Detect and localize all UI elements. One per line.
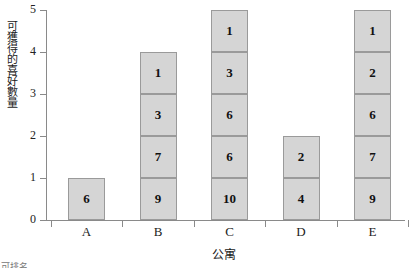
x-axis-title: 公寓	[0, 245, 419, 262]
bar-segment: 2	[283, 136, 320, 178]
bar-segment: 6	[68, 178, 105, 220]
bar-c: 106631	[211, 10, 248, 220]
bar-segment: 6	[211, 94, 248, 136]
y-tick-mark	[40, 52, 47, 53]
bar-a: 6	[68, 10, 105, 220]
x-tick-mark	[337, 220, 338, 227]
bar-segment: 6	[211, 136, 248, 178]
bar-segment: 3	[211, 52, 248, 94]
bar-e: 97621	[354, 10, 391, 220]
bar-segment: 10	[211, 178, 248, 220]
x-tick-mark	[194, 220, 195, 227]
x-tick-mark	[408, 220, 409, 227]
bar-segment: 6	[354, 94, 391, 136]
x-tick-label-b: B	[138, 224, 178, 240]
bar-segment: 1	[211, 10, 248, 52]
x-axis-line	[46, 220, 405, 221]
bar-segment: 7	[140, 136, 177, 178]
bar-segment: 9	[354, 178, 391, 220]
bar-d: 42	[283, 10, 320, 220]
bar-segment: 1	[354, 10, 391, 52]
y-tick-mark	[40, 178, 47, 179]
y-tick-label: 3	[22, 86, 36, 101]
bar-b: 9731	[140, 10, 177, 220]
y-tick-label: 5	[22, 2, 36, 17]
x-tick-mark	[265, 220, 266, 227]
y-tick-mark	[40, 136, 47, 137]
bar-segment: 2	[354, 52, 391, 94]
y-axis-title: 可獲得的喜好數量	[2, 20, 17, 108]
x-tick-mark	[122, 220, 123, 227]
bar-segment: 9	[140, 178, 177, 220]
stacked-bar-chart: 可獲得的喜好數量 012345 ABCDE 697311066314297621…	[0, 0, 419, 268]
x-tick-mark	[51, 220, 52, 227]
y-tick-label: 4	[22, 44, 36, 59]
x-tick-label-e: E	[353, 224, 393, 240]
y-tick-label: 2	[22, 128, 36, 143]
y-tick-label: 1	[22, 170, 36, 185]
bar-segment: 4	[283, 178, 320, 220]
x-axis-title-text: 公寓	[212, 245, 236, 262]
x-tick-label-d: D	[281, 224, 321, 240]
y-tick-label: 0	[22, 212, 36, 227]
bar-segment: 3	[140, 94, 177, 136]
y-tick-mark	[40, 94, 47, 95]
bar-segment: 7	[354, 136, 391, 178]
y-tick-mark	[40, 10, 47, 11]
y-tick-mark	[40, 220, 47, 221]
x-tick-label-a: A	[67, 224, 107, 240]
x-tick-label-c: C	[210, 224, 250, 240]
y-axis-line	[46, 10, 47, 221]
bar-segment: 1	[140, 52, 177, 94]
bottom-caption: 可排名	[1, 262, 28, 268]
